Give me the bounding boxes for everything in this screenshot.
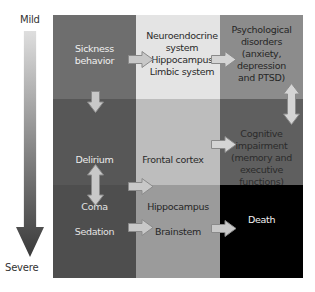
cell-sickness-behavior: Sickness behavior [53, 15, 136, 99]
cell-text: Hippocampus Brainstem [147, 201, 209, 239]
arrow-right-icon [128, 178, 154, 195]
arrow-right-icon [211, 51, 237, 68]
cell-frontal-cortex: Frontal cortex [136, 99, 220, 185]
scale-mild-label: Mild [20, 14, 40, 25]
cell-text: Death [248, 214, 275, 226]
arrow-right-icon [211, 136, 237, 153]
cell-text: Coma Sedation [75, 201, 115, 239]
cell-text: Psychological disorders (anxiety, depres… [231, 24, 291, 84]
scale-severe-label: Severe [5, 262, 38, 273]
arrow-up-down-icon [283, 83, 300, 125]
arrow-down-icon [87, 91, 104, 113]
cell-text: Cognitive impairment (memory and executi… [231, 128, 292, 188]
arrow-up-down-icon [87, 164, 104, 206]
cell-text: Neuroendocrine system Hippocampus Limbic… [146, 30, 218, 78]
arrow-right-icon [128, 51, 154, 68]
severity-grid: Sickness behavior Neuroendocrine system … [53, 15, 303, 278]
cell-text: Sickness behavior [75, 43, 114, 67]
arrow-right-icon [211, 220, 237, 237]
arrow-right-icon [128, 219, 154, 236]
severity-arrow-icon [16, 31, 44, 257]
cell-text: Frontal cortex [142, 154, 203, 166]
